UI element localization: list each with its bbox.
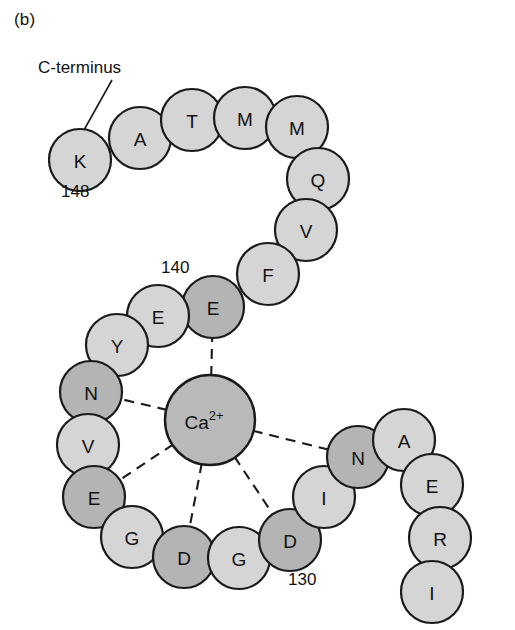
residue-letter-E140: E <box>207 298 220 319</box>
residue-F141[interactable]: F <box>237 243 299 305</box>
residue-letter-T146: T <box>186 111 198 132</box>
residue-letter-I125: I <box>429 583 434 604</box>
residue-circles-layer: KATMMQVFEEYNVEGDGDINAERI <box>49 87 471 623</box>
c-terminus-leader-line <box>84 80 112 130</box>
residue-number-140: 140 <box>161 258 189 278</box>
residue-E127[interactable]: E <box>401 454 463 516</box>
calcium-ion-base-text: Ca <box>184 412 209 433</box>
residue-D133[interactable]: D <box>153 526 215 588</box>
residue-letter-F141: F <box>262 265 274 286</box>
residue-E140[interactable]: E <box>182 276 244 338</box>
residue-letter-D131: D <box>283 531 297 552</box>
figure-canvas: (b) C-terminus KATMMQVFEEYNVEGDGDINAERI … <box>0 0 515 630</box>
bond-ca-to-E140 <box>211 337 212 376</box>
residue-letter-D133: D <box>177 548 191 569</box>
residue-letter-V136: V <box>82 436 95 457</box>
residue-letter-M145: M <box>237 109 253 130</box>
residue-letter-G132: G <box>232 549 247 570</box>
residue-number-148: 148 <box>61 182 89 202</box>
residue-letter-K148: K <box>74 151 87 172</box>
residue-letter-E127: E <box>426 476 439 497</box>
residue-letter-R126: R <box>433 529 447 550</box>
residue-number-130: 130 <box>288 570 316 590</box>
residue-letter-N137: N <box>84 383 98 404</box>
leader-line-layer <box>84 80 112 130</box>
residue-letter-A128: A <box>398 431 411 452</box>
residue-letter-A147: A <box>134 129 147 150</box>
residue-letter-V142: V <box>300 221 313 242</box>
residue-letter-Y138: Y <box>111 336 124 357</box>
residue-R126[interactable]: R <box>409 507 471 569</box>
residue-letter-N129: N <box>351 448 365 469</box>
residue-letter-G134: G <box>125 528 140 549</box>
residue-letter-M144: M <box>289 118 305 139</box>
bond-ca-to-E135 <box>119 444 173 480</box>
residue-letter-I130: I <box>321 488 326 509</box>
residue-letter-E135: E <box>88 488 101 509</box>
residue-letter-E139: E <box>152 307 165 328</box>
bond-ca-to-N129 <box>253 431 329 450</box>
calcium-ion-layer: Ca2+ <box>165 375 255 465</box>
bond-ca-to-D131 <box>234 457 273 515</box>
calcium-binding-loop-diagram: KATMMQVFEEYNVEGDGDINAERI Ca2+ <box>0 0 515 630</box>
residue-letter-Q143: Q <box>311 170 326 191</box>
calcium-ion-charge-superscript: 2+ <box>209 408 224 423</box>
bond-ca-to-N137 <box>120 399 167 410</box>
bond-ca-to-D133 <box>190 463 202 527</box>
calcium-ion[interactable]: Ca2+ <box>165 375 255 465</box>
residue-I125[interactable]: I <box>401 561 463 623</box>
